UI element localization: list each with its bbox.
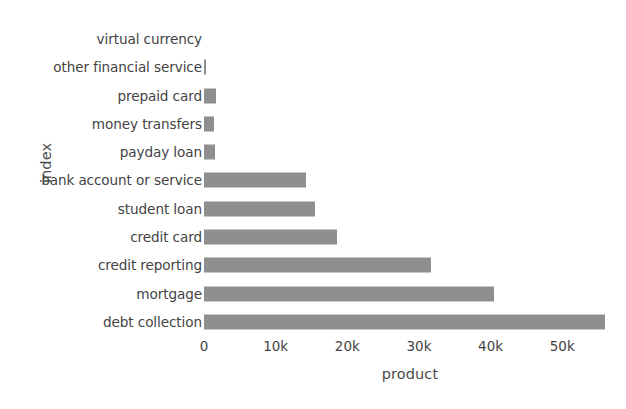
y-axis-tick-label: virtual currency [97,31,202,47]
y-axis-tick-label: mortgage [136,286,202,302]
bar-row: credit reporting [204,251,616,279]
bar [204,286,494,301]
x-axis-tick-label: 0 [200,338,209,354]
bar-row: money transfers [204,110,616,138]
y-axis-tick-label: bank account or service [41,172,202,188]
bar [204,230,337,245]
y-axis-tick-label: credit reporting [98,257,202,273]
bar-row: virtual currency [204,25,616,53]
y-axis-tick-label: prepaid card [117,88,202,104]
y-axis-tick-label: payday loan [120,144,202,160]
y-axis-tick-label: other financial service [53,59,202,75]
x-axis-tick-label: 50k [550,338,575,354]
bar-row: credit card [204,223,616,251]
y-axis-tick-label: money transfers [92,116,202,132]
bar [204,116,214,131]
x-axis-tick-label: 10k [263,338,288,354]
bar-row: prepaid card [204,82,616,110]
bar [204,60,206,75]
bar-row: other financial service [204,53,616,81]
bar-row: student loan [204,195,616,223]
bar [204,258,431,273]
y-axis-tick-label: debt collection [103,314,202,330]
bar-row: debt collection [204,308,616,336]
bar [204,201,315,216]
bar-row: mortgage [204,279,616,307]
bar [204,173,306,188]
y-axis-tick-label: student loan [118,201,202,217]
bar [204,88,216,103]
bar-row: payday loan [204,138,616,166]
bar [204,145,215,160]
bar-chart: index virtual currencyother financial se… [0,0,626,409]
x-axis-tick-label: 20k [335,338,360,354]
bar [204,314,605,329]
y-axis-tick-label: credit card [130,229,202,245]
x-axis-tick-labels: 010k20k30k40k50k [204,338,616,358]
bar-row: bank account or service [204,166,616,194]
x-axis-title: product [204,366,616,382]
x-axis-tick-label: 40k [478,338,503,354]
plot-area: virtual currencyother financial servicep… [204,25,616,336]
x-axis-tick-label: 30k [406,338,431,354]
